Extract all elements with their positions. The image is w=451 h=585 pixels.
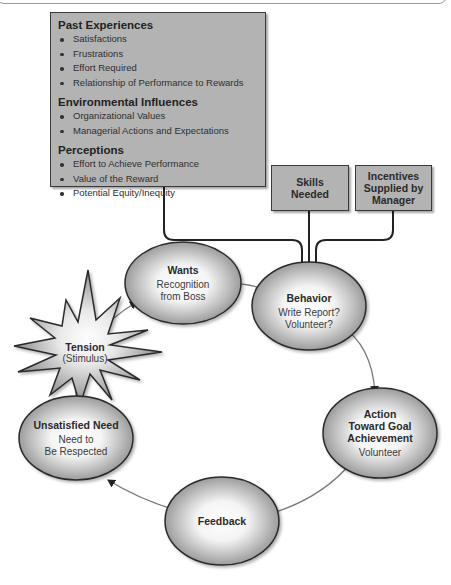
skills-line-2: Needed <box>291 188 329 200</box>
list-item: Organizational Values <box>58 109 258 124</box>
perceptions-list: Effort to Achieve Performance Value of t… <box>58 157 258 201</box>
feedback-title: Feedback <box>198 515 246 527</box>
tension-node: Tension (Stimulus) <box>40 339 130 367</box>
wants-title: Wants <box>167 264 198 276</box>
unsatisfied-sub-line-2: Be Respected <box>45 446 108 458</box>
behavior-sub-line-1: Write Report? <box>278 307 340 319</box>
list-item: Relationship of Performance to Rewards <box>58 76 258 91</box>
list-item: Value of the Reward <box>58 172 258 187</box>
section-title-past-experiences: Past Experiences <box>58 19 258 31</box>
incentives-line-1: Incentives <box>364 170 424 182</box>
skills-line-1: Skills <box>291 176 329 188</box>
influences-panel: Past Experiences Satisfactions Frustrati… <box>50 12 266 187</box>
action-title-line-3: Achievement <box>347 432 412 444</box>
list-item: Managerial Actions and Expectations <box>58 124 258 139</box>
action-sub: Volunteer <box>359 447 401 459</box>
list-item: Effort Required <box>58 61 258 76</box>
list-item: Frustrations <box>58 47 258 62</box>
incentives-line-2: Supplied by <box>364 182 424 194</box>
action-title: Action Toward Goal Achievement <box>347 408 412 444</box>
action-title-line-1: Action <box>347 408 412 420</box>
unsatisfied-title: Unsatisfied Need <box>33 419 118 431</box>
wants-sub-line-1: Recognition <box>157 279 210 291</box>
list-item: Potential Equity/Inequity <box>58 186 258 201</box>
section-title-environmental-influences: Environmental Influences <box>58 96 258 108</box>
wants-node: Wants Recognition from Boss <box>125 250 241 316</box>
arrow-action-to-feedback <box>266 462 352 515</box>
tension-sub: (Stimulus) <box>62 353 107 365</box>
list-item: Satisfactions <box>58 32 258 47</box>
tension-title: Tension <box>65 341 104 353</box>
behavior-sub: Write Report? Volunteer? <box>278 307 340 331</box>
past-experiences-list: Satisfactions Frustrations Effort Requir… <box>58 32 258 90</box>
wants-sub: Recognition from Boss <box>157 279 210 303</box>
feedback-node: Feedback <box>165 510 279 532</box>
unsatisfied-need-node: Unsatisfied Need Need to Be Respected <box>19 410 133 466</box>
incentives-box: Incentives Supplied by Manager <box>355 165 432 211</box>
behavior-node: Behavior Write Report? Volunteer? <box>252 280 366 342</box>
action-node: Action Toward Goal Achievement Volunteer <box>323 400 437 466</box>
section-title-perceptions: Perceptions <box>58 144 258 156</box>
behavior-title: Behavior <box>287 292 332 304</box>
behavior-sub-line-2: Volunteer? <box>278 319 340 331</box>
skills-needed-box: Skills Needed <box>271 165 349 211</box>
environmental-influences-list: Organizational Values Managerial Actions… <box>58 109 258 138</box>
unsatisfied-sub-line-1: Need to <box>45 434 108 446</box>
action-title-line-2: Toward Goal <box>347 420 412 432</box>
incentives-line-3: Manager <box>364 194 424 206</box>
list-item: Effort to Achieve Performance <box>58 157 258 172</box>
unsatisfied-sub: Need to Be Respected <box>45 434 108 458</box>
wants-sub-line-2: from Boss <box>157 291 210 303</box>
